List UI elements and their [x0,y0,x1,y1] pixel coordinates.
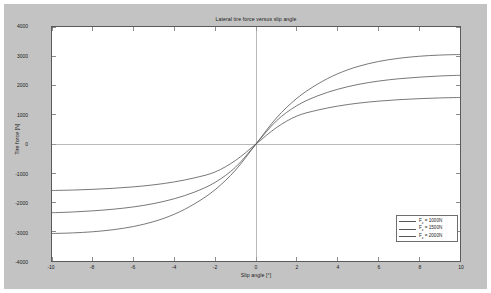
x-tick-label: 2 [285,264,309,270]
legend-line-swatch [399,236,416,237]
legend-line-swatch [399,229,416,230]
y-tick-label: 3000 [0,53,28,59]
x-axis-label: Slip angle [°] [51,272,461,278]
y-tick-label: 1000 [0,112,28,118]
y-tick-label: 0 [0,141,28,147]
y-tick-label: 2000 [0,82,28,88]
x-tick-label: 6 [367,264,391,270]
y-tick-label: -1000 [0,171,28,177]
y-axis-label: Tire force [N] [14,109,20,169]
x-tick-label: 10 [449,264,473,270]
y-tick-label: -2000 [0,200,28,206]
x-tick-label: 4 [326,264,350,270]
x-tick-label: 8 [408,264,432,270]
x-tick-label: -6 [121,264,145,270]
x-tick-label: -2 [203,264,227,270]
legend-line-swatch [399,221,416,222]
x-tick-label: -4 [162,264,186,270]
x-tick-label: 0 [244,264,268,270]
legend-item: Fz = 2000N [399,233,455,240]
y-tick-label: -3000 [0,230,28,236]
x-tick-label: -8 [80,264,104,270]
y-tick-label: -4000 [0,259,28,265]
chart-title: Lateral tire force versus slip angle [51,15,461,23]
legend: Fz = 1000N Fz = 1500N Fz = 2000N [396,215,458,242]
legend-label: Fz = 2000N [419,232,442,242]
figure-window: Lateral tire force versus slip angle Tir… [0,0,491,293]
y-tick-label: 4000 [0,23,28,29]
x-tick-label: -10 [39,264,63,270]
